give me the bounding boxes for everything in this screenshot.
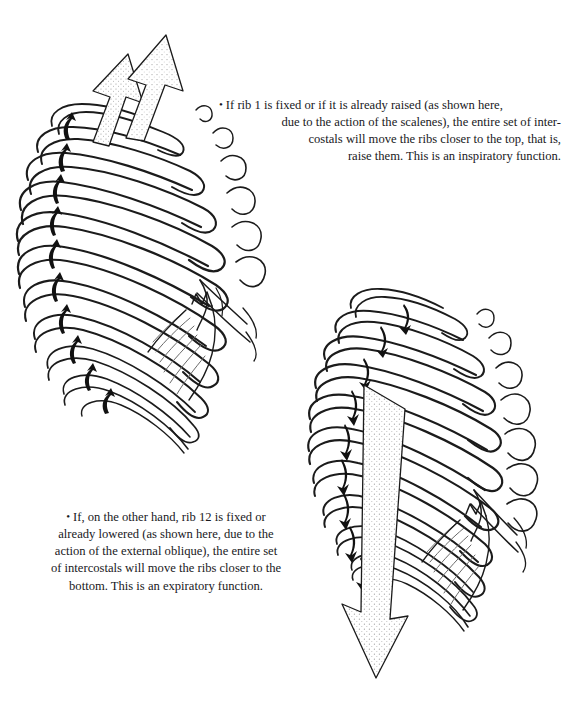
caption-line: If, on the other hand, rib 12 is fixed o… xyxy=(73,510,266,524)
caption-line: action of the external oblique), the ent… xyxy=(18,543,314,560)
caption-inspiratory: •If rib 1 is fixed or if it is already r… xyxy=(219,96,561,166)
bullet-marker: • xyxy=(219,98,226,110)
ribcage-inspiration-figure xyxy=(0,8,300,458)
caption-line: bottom. This is an expiratory function. xyxy=(18,578,314,595)
page-canvas: · · · · xyxy=(0,0,567,701)
caption-line: If rib 1 is fixed or if it is already ra… xyxy=(226,98,503,112)
ribcage-expiration-figure xyxy=(288,278,567,698)
caption-line: costals will move the ribs closer to the… xyxy=(219,131,561,148)
caption-line: due to the action of the scalenes), the … xyxy=(219,114,561,131)
caption-line: already lowered (as shown here, due to t… xyxy=(18,526,314,543)
caption-line: of intercostals will move the ribs close… xyxy=(18,560,314,577)
caption-line: raise them. This is an inspiratory funct… xyxy=(219,148,561,165)
top-intercostal-arrows xyxy=(49,112,115,414)
scalene-traction-arrows xyxy=(93,35,183,146)
external-oblique-traction-arrow xyxy=(342,385,408,678)
bottom-intercostal-arrows xyxy=(337,304,411,592)
caption-expiratory: •If, on the other hand, rib 12 is fixed … xyxy=(18,508,314,595)
running-head: · · · · xyxy=(0,0,567,3)
bottom-rib-outlines xyxy=(308,289,537,631)
